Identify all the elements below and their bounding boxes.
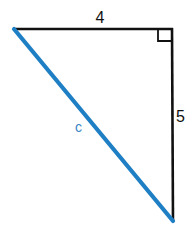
background: [0, 0, 190, 237]
right-triangle-diagram: 4 5 c: [0, 0, 190, 237]
label-right-side: 5: [176, 108, 185, 125]
label-top-side: 4: [96, 9, 105, 26]
side-right-leg: [172, 28, 173, 222]
label-hypotenuse: c: [75, 119, 82, 135]
